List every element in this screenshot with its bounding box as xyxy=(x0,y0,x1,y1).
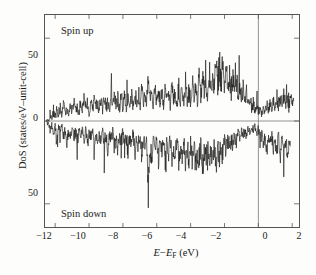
x-tick-label-5: −2 xyxy=(203,231,229,241)
plot-area: Spin up Spin down xyxy=(44,14,300,228)
x-tick-label-7: 2 xyxy=(286,231,312,241)
x-tick-label-2: −8 xyxy=(100,231,126,241)
x-axis-title-units: (eV) xyxy=(177,247,199,258)
dos-curve-spin-down xyxy=(47,121,291,208)
spin-down-label: Spin down xyxy=(61,208,106,219)
x-tick-label-3: −6 xyxy=(134,231,160,241)
x-tick-label-0: −12 xyxy=(31,231,57,241)
y-axis-title: DoS (states/eV–unit-cell) xyxy=(17,21,28,211)
x-tick-label-1: −10 xyxy=(65,231,91,241)
x-axis-title: E−EF (eV) xyxy=(86,247,266,261)
dos-curve-spin-up xyxy=(47,52,294,121)
x-tick-label-4: −4 xyxy=(168,231,194,241)
dos-figure: 50 0 50 −12 −10 −8 −6 −4 −2 0 2 E−EF (eV… xyxy=(0,0,316,275)
x-tick-label-6: 0 xyxy=(252,231,278,241)
spin-up-label: Spin up xyxy=(61,25,93,36)
dos-curves-svg xyxy=(45,15,299,227)
